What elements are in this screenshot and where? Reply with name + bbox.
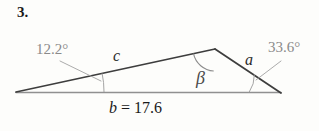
side-label-a: a [245,52,253,68]
angle-label-beta: β [196,69,205,87]
angle-arc-right [249,74,254,92]
angle-label-left: 12.2° [36,42,68,57]
side-label-b-variable: b [109,99,117,116]
angle-arc-left [102,73,104,92]
side-label-c: c [113,48,120,64]
figure-container: 3. 12.2° 33.6° c a β b = 17.6 [0,0,319,131]
side-label-b-value: = 17.6 [117,99,162,116]
angle-label-right: 33.6° [268,40,300,55]
leader-line-right [256,61,281,80]
side-label-b: b = 17.6 [109,100,162,116]
